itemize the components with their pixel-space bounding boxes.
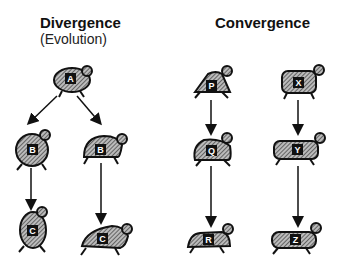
svg-text:Y: Y	[294, 145, 300, 155]
node-y: Y	[274, 133, 325, 165]
node-q: Q	[194, 133, 232, 166]
node-b2: B	[84, 134, 127, 164]
svg-text:A: A	[67, 74, 74, 84]
svg-text:P: P	[208, 81, 214, 91]
node-a: A	[54, 66, 92, 97]
svg-text:X: X	[295, 78, 301, 88]
edge-a-b1	[29, 96, 57, 123]
node-z: Z	[272, 223, 321, 254]
svg-text:C: C	[29, 226, 36, 236]
diagram-canvas: A B B C C	[0, 0, 345, 270]
node-c2: C	[81, 224, 132, 255]
node-c1: C	[19, 207, 47, 252]
svg-text:C: C	[99, 234, 106, 244]
svg-text:Z: Z	[293, 235, 299, 245]
node-r: R	[188, 224, 233, 253]
svg-text:Q: Q	[208, 146, 215, 156]
node-x: X	[282, 65, 324, 99]
edge-a-b2	[77, 96, 100, 123]
svg-text:B: B	[97, 145, 104, 155]
node-b1: B	[16, 130, 50, 170]
node-p: P	[195, 66, 232, 98]
svg-text:R: R	[205, 235, 212, 245]
svg-text:B: B	[29, 145, 36, 155]
